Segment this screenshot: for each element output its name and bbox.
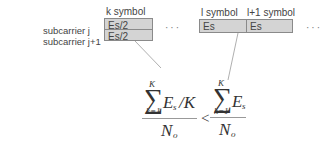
connector-k-to-formula	[135, 41, 161, 68]
left-denominator-sub: o	[173, 131, 178, 140]
right-term-sub: s	[242, 102, 246, 111]
left-term: E	[163, 94, 173, 111]
right-fraction-bar	[210, 117, 246, 118]
left-sum-lower: k=1	[146, 107, 161, 116]
right-sum-lower: k=1	[214, 107, 229, 116]
right-denominator: N	[219, 121, 230, 138]
less-than-symbol: <	[201, 111, 209, 126]
left-denominator: N	[161, 122, 172, 139]
left-divisor: /K	[179, 94, 195, 111]
right-denominator-sub: o	[231, 130, 236, 139]
left-fraction-bar	[142, 118, 197, 119]
right-term: E	[232, 93, 242, 110]
connector-l-to-formula	[228, 33, 238, 80]
left-term-sub: s	[173, 103, 177, 112]
